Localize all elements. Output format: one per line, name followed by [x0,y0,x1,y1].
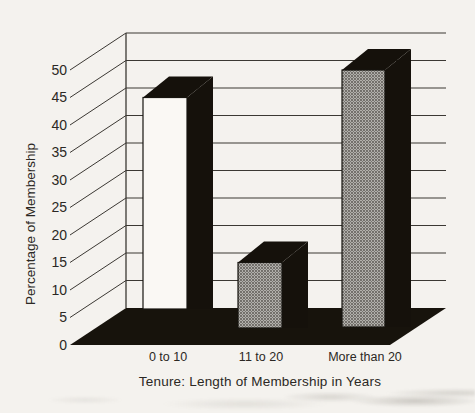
y-tick-line [70,33,126,70]
y-tick-line [70,61,126,98]
y-tick-lines [70,33,126,318]
x-category-labels: 0 to 1011 to 20More than 20 [149,350,402,364]
y-tick-line [70,143,126,180]
bar-0-to-10 [143,77,213,310]
y-tick-line [70,171,126,208]
y-tick-label: 0 [59,337,67,353]
y-tick-line [70,116,126,153]
y-tick-label: 45 [51,89,67,105]
x-category-label: 11 to 20 [239,350,283,364]
y-tick-labels: 05101520253035404550 [51,62,67,353]
bar-front-face [143,98,187,310]
y-tick-line [70,281,126,318]
scanned-page: 051015202530354045500 to 1011 to 20More … [0,0,475,413]
y-tick-line [70,253,126,290]
y-tick-label: 5 [59,309,67,325]
membership-tenure-bar-chart: 051015202530354045500 to 1011 to 20More … [0,0,475,413]
y-tick-label: 35 [51,144,67,160]
bar-chart-3d-canvas: 051015202530354045500 to 1011 to 20More … [0,0,475,413]
y-tick-line [70,226,126,263]
x-category-label: More than 20 [328,350,402,364]
bar-front-face [342,70,385,327]
y-axis-title: Percentage of Membership [23,143,38,305]
bar-11-to-20 [238,242,308,329]
bar-more-than-20 [342,49,411,327]
y-tick-label: 30 [51,172,67,188]
y-tick-label: 25 [51,199,67,215]
y-tick-label: 10 [51,282,67,298]
y-tick-line [70,198,126,235]
y-tick-line [70,88,126,125]
bar-front-face [238,263,282,329]
y-tick-label: 50 [51,62,67,78]
y-tick-label: 40 [51,117,67,133]
bar-side-face [385,49,411,327]
y-tick-label: 15 [51,254,67,270]
x-category-label: 0 to 10 [149,350,187,364]
bar-side-face [187,77,213,310]
x-axis-title: Tenure: Length of Membership in Years [139,374,381,389]
y-tick-label: 20 [51,227,67,243]
